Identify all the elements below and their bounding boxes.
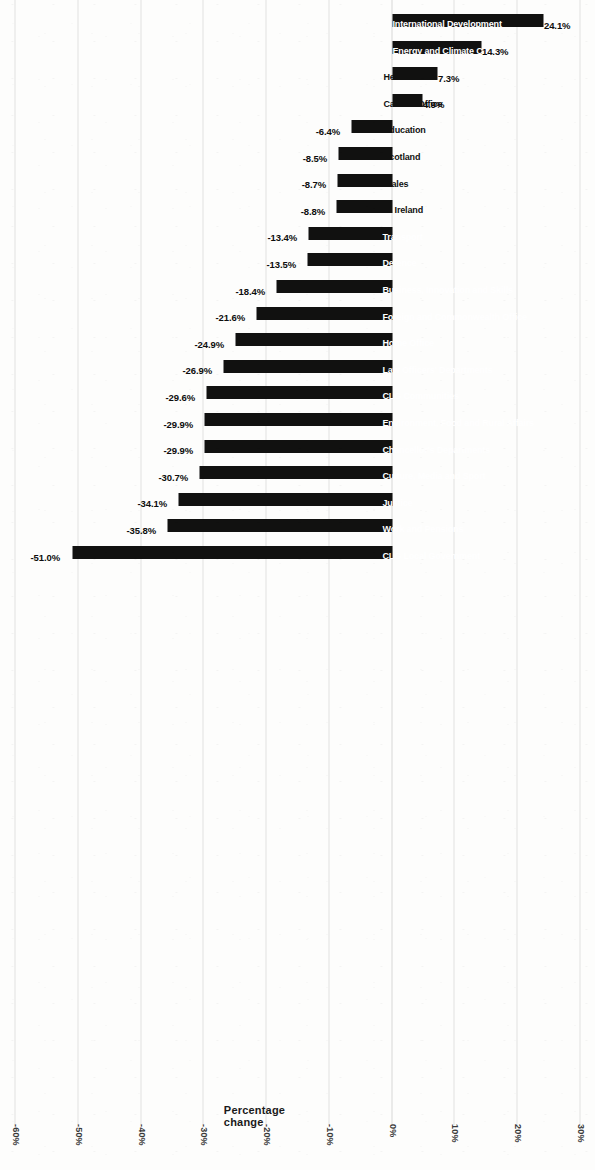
bar-value-label: -34.1% bbox=[137, 498, 167, 509]
y-axis-title: Percentage change bbox=[223, 1104, 284, 1128]
bar-value-label: -8.7% bbox=[301, 179, 325, 190]
y-axis-tick-label: 20% bbox=[512, 1124, 522, 1168]
bar-value-label: -18.4% bbox=[235, 285, 265, 296]
bar bbox=[72, 546, 392, 559]
gridline bbox=[453, 0, 454, 1125]
category-label: CLG Communities bbox=[382, 391, 458, 401]
category-label: International Development bbox=[392, 19, 501, 29]
bar-value-label: 14.3% bbox=[482, 46, 508, 57]
category-label: CLG Local Government bbox=[382, 551, 480, 561]
y-axis-tick-label: -20% bbox=[261, 1124, 271, 1168]
bar-value-label: -29.6% bbox=[165, 391, 195, 402]
bar bbox=[307, 253, 392, 266]
category-label: Health bbox=[383, 72, 410, 82]
bar bbox=[206, 386, 392, 399]
gridline bbox=[265, 0, 266, 1125]
bar bbox=[204, 413, 392, 426]
bar-value-label: 4.9% bbox=[423, 99, 444, 110]
bar bbox=[167, 519, 392, 532]
bar-value-label: 7.3% bbox=[438, 72, 459, 83]
category-label: Home Office bbox=[382, 338, 433, 348]
category-label: Work and Pensions bbox=[382, 524, 463, 534]
gridline bbox=[328, 0, 329, 1125]
bar-value-label: -21.6% bbox=[215, 312, 245, 323]
bar bbox=[276, 280, 392, 293]
bar bbox=[256, 307, 392, 320]
category-label: Justice bbox=[382, 498, 412, 508]
y-axis-tick-label: 30% bbox=[575, 1124, 585, 1168]
zero-axis-line bbox=[391, 0, 392, 1125]
category-label: Environment, Food and Rural Affairs bbox=[382, 418, 533, 428]
bar-value-label: -24.9% bbox=[194, 338, 224, 349]
bar-value-label: -13.5% bbox=[266, 258, 296, 269]
plot-area: 30%20%10%0%-10%-20%-30%-40%-50%-60%Perce… bbox=[0, 0, 595, 1170]
bar-value-label: -6.4% bbox=[316, 125, 340, 136]
category-label: Law Officers' Departments bbox=[382, 365, 492, 375]
gridline bbox=[579, 0, 580, 1125]
y-axis-tick-label: -60% bbox=[10, 1124, 20, 1168]
category-label: N. Ireland bbox=[383, 205, 423, 215]
bar-value-label: -29.9% bbox=[163, 418, 193, 429]
bar-value-label: -26.9% bbox=[182, 365, 212, 376]
gridline bbox=[516, 0, 517, 1125]
category-label: Chancellor's Departments bbox=[382, 445, 490, 455]
y-axis-tick-label: -50% bbox=[73, 1124, 83, 1168]
bar-value-label: -13.4% bbox=[267, 232, 297, 243]
y-axis-tick-label: -40% bbox=[136, 1124, 146, 1168]
gridline bbox=[140, 0, 141, 1125]
y-axis-tick-label: -30% bbox=[198, 1124, 208, 1168]
category-label: Scotland bbox=[383, 152, 420, 162]
bar bbox=[204, 440, 392, 453]
category-label: Transport bbox=[382, 232, 422, 242]
gridline bbox=[77, 0, 78, 1125]
category-label: Wales bbox=[383, 179, 408, 189]
bar-value-label: 24.1% bbox=[543, 19, 569, 30]
bar bbox=[235, 333, 391, 346]
scanned-page-frame: 30%20%10%0%-10%-20%-30%-40%-50%-60%Perce… bbox=[0, 0, 595, 1170]
gridline bbox=[14, 0, 15, 1125]
gridline bbox=[202, 0, 203, 1125]
bar-chart: 30%20%10%0%-10%-20%-30%-40%-50%-60%Perce… bbox=[0, 0, 595, 1170]
bar-value-label: -35.8% bbox=[126, 524, 156, 535]
category-label: Business, Innovation and Skills bbox=[382, 285, 512, 295]
category-label: Culture, Media and Sport bbox=[382, 471, 485, 481]
category-label: Education bbox=[383, 125, 425, 135]
bar-value-label: -29.9% bbox=[163, 445, 193, 456]
bar-value-label: -8.5% bbox=[302, 152, 326, 163]
y-axis-tick-label: 10% bbox=[449, 1124, 459, 1168]
category-label: Defence bbox=[382, 258, 416, 268]
category-label: Foreign and Commonwealth Office bbox=[382, 312, 526, 322]
bar bbox=[178, 493, 392, 506]
bar bbox=[223, 360, 392, 373]
bar bbox=[308, 227, 392, 240]
y-axis-tick-label: 0% bbox=[387, 1124, 397, 1168]
y-axis-tick-label: -10% bbox=[324, 1124, 334, 1168]
bar-value-label: -51.0% bbox=[30, 551, 60, 562]
bar-value-label: -8.8% bbox=[301, 205, 325, 216]
bar bbox=[199, 466, 392, 479]
bar-value-label: -30.7% bbox=[158, 471, 188, 482]
